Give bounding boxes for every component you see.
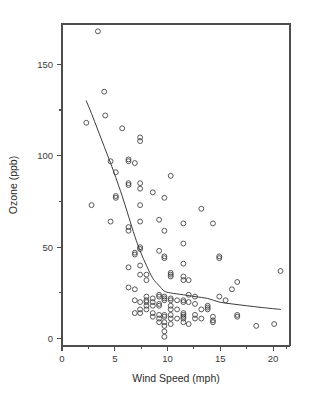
y-axis-title: Ozone (ppb) <box>7 156 19 214</box>
x-tick-label: 15 <box>215 353 226 364</box>
data-point <box>132 161 137 166</box>
data-point <box>223 298 228 303</box>
x-tick-label: 5 <box>112 353 117 364</box>
data-point <box>162 195 167 200</box>
data-point <box>144 272 149 277</box>
data-point <box>126 265 131 270</box>
data-point <box>186 292 191 297</box>
data-point <box>89 203 94 208</box>
data-point <box>199 307 204 312</box>
y-tick-label: 100 <box>37 150 53 161</box>
axis-labels-group: Wind Speed (mph)Ozone (ppb) <box>7 156 220 384</box>
data-point <box>103 113 108 118</box>
x-tick-label: 10 <box>162 353 173 364</box>
data-point <box>199 316 204 321</box>
data-point <box>138 272 143 277</box>
data-point <box>162 334 167 339</box>
data-point <box>193 316 198 321</box>
y-tick-label: 150 <box>37 59 53 70</box>
data-point <box>150 303 155 308</box>
data-point <box>181 278 186 283</box>
smooth-curve-group <box>86 101 280 310</box>
scatter-plot-figure: 05101520050100150 Wind Speed (mph)Ozone … <box>0 0 312 406</box>
data-point <box>138 300 143 305</box>
data-point <box>168 173 173 178</box>
data-point <box>138 311 143 316</box>
data-point <box>126 285 131 290</box>
data-point <box>138 263 143 268</box>
data-point <box>150 190 155 195</box>
data-point <box>144 278 149 283</box>
data-point <box>175 307 180 312</box>
data-point <box>181 261 186 266</box>
data-point <box>210 221 215 226</box>
data-point <box>175 316 180 321</box>
data-point <box>186 300 191 305</box>
data-point <box>162 228 167 233</box>
data-point <box>186 322 191 327</box>
data-point <box>162 323 167 328</box>
data-point <box>157 248 162 253</box>
data-point <box>235 280 240 285</box>
data-point <box>120 126 125 131</box>
data-point <box>272 322 277 327</box>
x-tick-label: 20 <box>268 353 279 364</box>
data-point <box>150 314 155 319</box>
x-axis-title: Wind Speed (mph) <box>132 372 220 384</box>
data-point <box>157 217 162 222</box>
x-tick-label: 0 <box>59 353 64 364</box>
data-point <box>138 139 143 144</box>
data-point <box>108 219 113 224</box>
data-point <box>138 219 143 224</box>
data-point <box>144 303 149 308</box>
data-point <box>138 203 143 208</box>
data-point <box>132 287 137 292</box>
data-point <box>181 241 186 246</box>
data-point <box>186 278 191 283</box>
data-point <box>132 298 137 303</box>
data-point <box>126 228 131 233</box>
data-point <box>102 89 107 94</box>
plot-canvas: 05101520050100150 Wind Speed (mph)Ozone … <box>0 0 312 406</box>
data-point <box>193 301 198 306</box>
data-point <box>278 269 283 274</box>
data-point <box>168 307 173 312</box>
data-point <box>168 316 173 321</box>
data-point <box>181 221 186 226</box>
y-tick-label: 50 <box>42 242 53 253</box>
data-point <box>229 287 234 292</box>
data-point <box>138 181 143 186</box>
data-point <box>162 329 167 334</box>
data-point <box>254 323 259 328</box>
data-point <box>217 294 222 299</box>
data-point <box>168 322 173 327</box>
lowess-smooth-curve <box>86 101 280 310</box>
data-point <box>138 186 143 191</box>
data-point <box>181 320 186 325</box>
y-tick-label: 0 <box>48 333 53 344</box>
data-point <box>132 311 137 316</box>
data-point <box>157 320 162 325</box>
data-point <box>95 29 100 34</box>
data-point <box>84 120 89 125</box>
data-points-group <box>84 29 283 339</box>
data-point <box>175 298 180 303</box>
data-point <box>199 206 204 211</box>
